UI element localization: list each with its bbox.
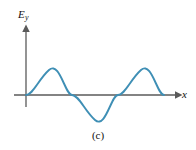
y-axis-label: Ey (18, 9, 29, 22)
wave-diagram-svg (0, 0, 196, 150)
panel-caption: (c) (0, 130, 196, 141)
x-axis-label: x (182, 89, 187, 100)
y-axis-label-subscript: y (25, 13, 29, 22)
wave-figure-panel-c: Ey x (c) (0, 0, 196, 150)
y-axis-label-symbol: E (18, 8, 25, 20)
